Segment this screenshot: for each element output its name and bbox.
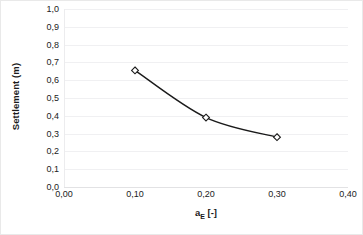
x-axis-line [64, 187, 348, 188]
y-axis-tick-label: 0,1 [27, 165, 59, 174]
x-axis-tick-label: 0,30 [255, 190, 299, 199]
y-axis-tick-label: 1,0 [27, 5, 59, 14]
y-axis-tick-label: 0,9 [27, 22, 59, 31]
y-axis-tick-labels: 0,00,10,20,30,40,50,60,70,80,91,0 [27, 9, 59, 187]
y-axis-title-text: Settlement (m) [11, 62, 22, 129]
y-axis-tick-label: 0,4 [27, 111, 59, 120]
y-axis-tick-label: 0,5 [27, 94, 59, 103]
y-axis-tick-label: 0,2 [27, 147, 59, 156]
y-axis-tick-label: 0,8 [27, 40, 59, 49]
y-axis-tick-label: 0,6 [27, 76, 59, 85]
y-axis-tick-label: 0,7 [27, 58, 59, 67]
data-point-marker [203, 114, 210, 121]
x-axis-tick-label: 0,20 [184, 190, 228, 199]
series-line [135, 70, 277, 137]
x-axis-title-unit: [-] [205, 207, 217, 218]
x-axis-tick-labels: 0,000,100,200,300,40 [64, 190, 348, 204]
x-axis-tick-label: 0,10 [113, 190, 157, 199]
x-axis-tick-label: 0,40 [326, 190, 363, 199]
x-axis-tick-label: 0,00 [42, 190, 86, 199]
x-axis-title: aE [-] [64, 207, 348, 220]
data-series-layer [64, 9, 348, 187]
data-point-marker [274, 134, 281, 141]
y-axis-tick-label: 0,3 [27, 129, 59, 138]
plot-area [64, 9, 348, 187]
chart-container: Settlement (m) 0,00,10,20,30,40,50,60,70… [0, 0, 363, 235]
